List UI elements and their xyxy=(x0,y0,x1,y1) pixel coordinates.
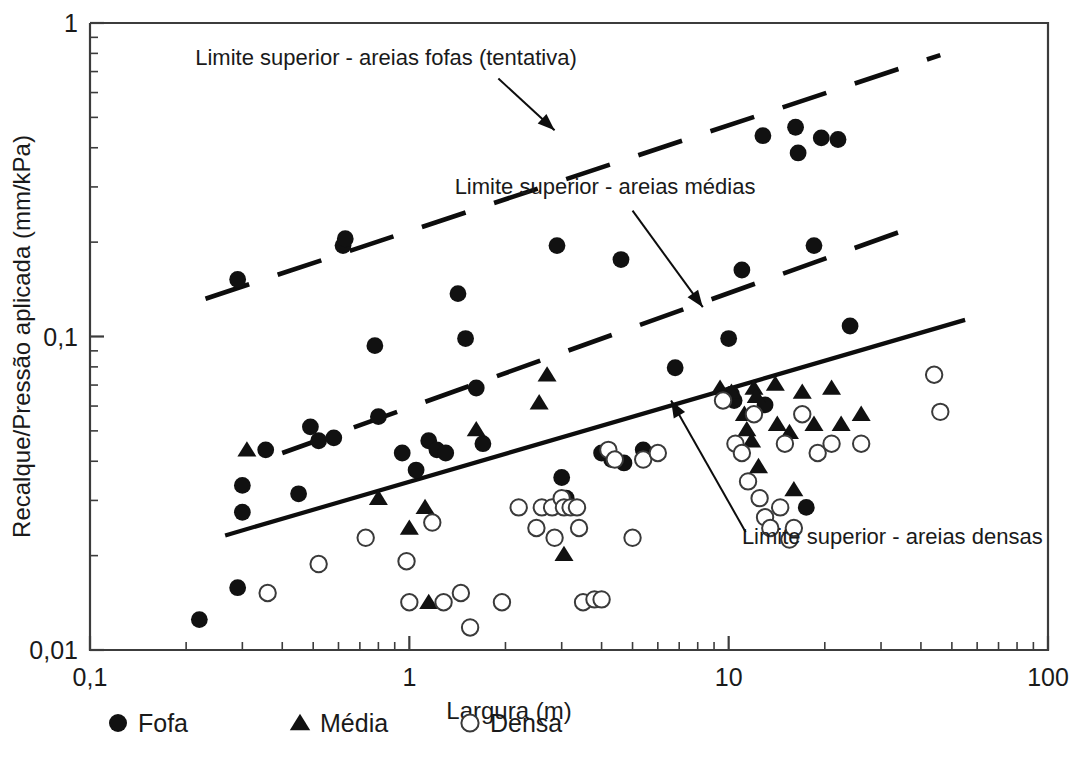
data-point-fofa xyxy=(798,499,815,516)
data-point-fofa xyxy=(191,611,208,628)
data-point-densa xyxy=(746,406,762,422)
data-point-densa xyxy=(932,404,948,420)
limit-line-upper-dense-sands xyxy=(225,320,965,536)
data-point-densa xyxy=(777,436,793,452)
data-point-fofa xyxy=(394,445,411,462)
y-tick-label: 0,1 xyxy=(43,323,78,351)
data-point-fofa xyxy=(366,337,383,354)
legend-label-mdia: Média xyxy=(320,709,388,737)
annotations: Limite superior - areias fofas (tentativ… xyxy=(195,45,1042,549)
data-point-fofa xyxy=(310,432,327,449)
data-point-fofa xyxy=(337,230,354,247)
data-point-media xyxy=(768,416,787,431)
data-point-fofa xyxy=(370,408,387,425)
data-point-densa xyxy=(453,585,469,601)
data-point-fofa xyxy=(408,462,425,479)
legend-label-densa: Densa xyxy=(490,709,562,737)
data-point-densa xyxy=(401,594,417,610)
data-point-fofa xyxy=(830,131,847,148)
data-point-fofa xyxy=(790,145,807,162)
data-point-densa xyxy=(462,619,478,635)
data-point-densa xyxy=(607,451,623,467)
data-point-media xyxy=(832,416,851,431)
data-point-densa xyxy=(494,594,510,610)
data-point-densa xyxy=(751,490,767,506)
data-point-media xyxy=(467,421,486,436)
data-point-fofa xyxy=(468,380,485,397)
data-point-fofa xyxy=(325,429,342,446)
data-point-fofa xyxy=(475,435,492,452)
data-point-media xyxy=(749,458,768,473)
data-point-densa xyxy=(528,520,544,536)
scatter-plot-svg: Limite superior - areias fofas (tentativ… xyxy=(0,0,1088,766)
data-point-fofa xyxy=(720,330,737,347)
annotation-limite-fofas: Limite superior - areias fofas (tentativ… xyxy=(195,45,577,70)
x-tick-label: 0,1 xyxy=(73,663,108,691)
data-point-fofa xyxy=(667,359,684,376)
legend: FofaMédiaDensa xyxy=(109,709,562,737)
annotation-limite-densas: Limite superior - areias densas xyxy=(742,524,1043,549)
data-point-fofa xyxy=(733,262,750,279)
legend-marker-media xyxy=(290,714,310,730)
data-point-fofa xyxy=(613,251,630,268)
data-point-media xyxy=(538,366,557,381)
limite-densas-arrow-shaft xyxy=(671,400,746,531)
limite-medias-arrow-shaft xyxy=(633,211,703,308)
data-point-densa xyxy=(398,553,414,569)
data-point-fofa xyxy=(450,285,467,302)
data-point-densa xyxy=(772,499,788,515)
data-point-fofa xyxy=(553,469,570,486)
data-point-densa xyxy=(571,520,587,536)
data-point-fofa xyxy=(806,237,823,254)
data-point-media xyxy=(852,406,871,421)
limite-medias-arrow-head xyxy=(688,290,703,308)
data-point-densa xyxy=(715,392,731,408)
data-point-densa xyxy=(650,445,666,461)
legend-marker-densa xyxy=(461,714,478,731)
data-point-fofa xyxy=(234,477,251,494)
data-point-media xyxy=(784,481,803,496)
data-point-densa xyxy=(794,406,810,422)
data-point-densa xyxy=(734,445,750,461)
chart-figure: Limite superior - areias fofas (tentativ… xyxy=(0,0,1088,766)
data-point-fofa xyxy=(234,504,251,521)
y-axis-title: Recalque/Pressão aplicada (mm/kPa) xyxy=(8,135,35,538)
data-point-densa xyxy=(259,585,275,601)
data-point-media xyxy=(822,379,841,394)
data-point-fofa xyxy=(229,579,246,596)
data-point-media xyxy=(416,499,435,514)
legend-marker-fofa xyxy=(109,714,127,732)
data-point-densa xyxy=(823,436,839,452)
data-point-densa xyxy=(310,556,326,572)
data-point-densa xyxy=(510,499,526,515)
data-point-fofa xyxy=(257,441,274,458)
data-point-media xyxy=(530,394,549,409)
legend-label-fofa: Fofa xyxy=(138,709,188,737)
x-tick-label: 10 xyxy=(715,663,743,691)
data-point-media xyxy=(237,441,256,456)
data-point-fofa xyxy=(755,127,772,144)
y-tick-label: 1 xyxy=(64,9,78,37)
annotation-limite-medias: Limite superior - areias médias xyxy=(455,174,756,199)
data-point-fofa xyxy=(290,485,307,502)
data-point-densa xyxy=(624,530,640,546)
data-point-media xyxy=(554,546,573,561)
data-point-densa xyxy=(853,436,869,452)
data-point-densa xyxy=(593,591,609,607)
data-point-densa xyxy=(926,367,942,383)
data-point-fofa xyxy=(813,130,830,147)
data-point-densa xyxy=(435,594,451,610)
data-point-fofa xyxy=(229,271,246,288)
data-point-densa xyxy=(357,530,373,546)
data-point-densa xyxy=(546,530,562,546)
data-point-fofa xyxy=(787,119,804,136)
data-point-fofa xyxy=(842,318,859,335)
data-point-densa xyxy=(569,499,585,515)
y-tick-label: 0,01 xyxy=(29,636,78,664)
data-point-media xyxy=(400,519,419,534)
limit-lines xyxy=(206,55,966,535)
data-point-densa xyxy=(740,473,756,489)
data-point-fofa xyxy=(549,237,566,254)
x-tick-label: 1 xyxy=(402,663,416,691)
data-point-media xyxy=(793,383,812,398)
